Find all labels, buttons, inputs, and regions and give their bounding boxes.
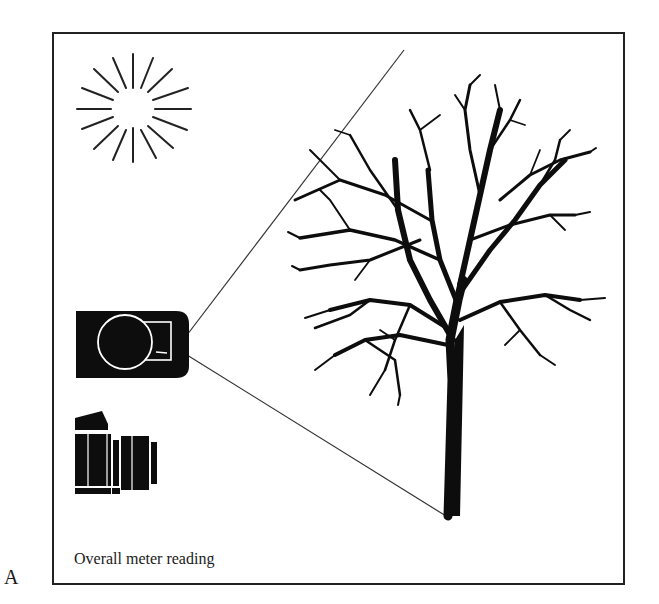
tree-illustration bbox=[288, 75, 605, 516]
illustration bbox=[0, 0, 659, 604]
meter-angle-of-view-lines bbox=[187, 50, 446, 516]
light-meter-icon bbox=[76, 311, 189, 378]
sun-icon bbox=[77, 54, 191, 162]
camera-icon bbox=[75, 411, 157, 494]
figure-caption: Overall meter reading bbox=[74, 550, 214, 568]
panel-label: A bbox=[4, 566, 18, 589]
